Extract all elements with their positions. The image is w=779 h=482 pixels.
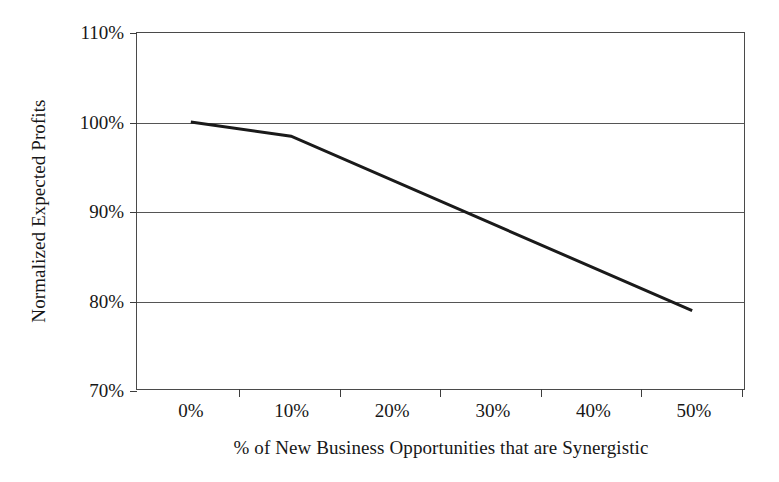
x-tick-mark [340, 389, 341, 397]
x-tick-mark [742, 389, 743, 397]
x-tick-mark [239, 389, 240, 397]
chart-figure: Normalized Expected Profits 70%80%90%100… [0, 0, 779, 482]
y-tick-mark [130, 123, 137, 124]
x-tick-mark [641, 389, 642, 397]
series-line-normalized-expected-profits [191, 122, 692, 311]
data-series-svg [137, 33, 744, 389]
y-tick-label-80%: 80% [89, 291, 124, 313]
x-tick-mark [541, 389, 542, 397]
x-tick-label-10%: 10% [274, 400, 309, 422]
y-tick-mark [130, 212, 137, 213]
y-tick-mark [130, 33, 137, 34]
plot-area: 70%80%90%100%110% 0%10%20%30%40%50% [136, 32, 745, 390]
y-tick-label-100%: 100% [80, 112, 124, 134]
x-tick-label-50%: 50% [677, 400, 712, 422]
y-tick-mark [130, 391, 137, 392]
x-tick-label-40%: 40% [576, 400, 611, 422]
x-tick-label-0%: 0% [178, 400, 203, 422]
x-tick-mark [440, 389, 441, 397]
x-axis-title: % of New Business Opportunities that are… [136, 437, 746, 459]
x-tick-label-30%: 30% [475, 400, 510, 422]
x-tick-label-20%: 20% [375, 400, 410, 422]
y-tick-label-90%: 90% [89, 201, 124, 223]
y-tick-mark [130, 302, 137, 303]
y-tick-label-70%: 70% [89, 380, 124, 402]
y-axis-title: Normalized Expected Profits [28, 41, 50, 381]
y-tick-label-110%: 110% [80, 22, 124, 44]
